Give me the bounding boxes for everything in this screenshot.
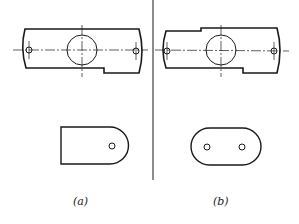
- part-outline: [23, 29, 142, 73]
- panel-a-label: (a): [73, 195, 88, 208]
- panel-a-top-view: [13, 25, 148, 77]
- drawing-svg: [0, 0, 299, 224]
- technical-drawing-figure: (a) (b): [0, 0, 299, 224]
- panel-b-side-view: [191, 128, 261, 165]
- panel-b-label: (b): [213, 195, 229, 208]
- slot-outline: [191, 128, 261, 165]
- panel-a-side-view: [61, 127, 129, 164]
- panel-b-top-view: [155, 25, 289, 77]
- slot-hole-left: [204, 144, 210, 150]
- horizontal-center-line: [155, 50, 289, 51]
- slot-hole-right: [239, 144, 245, 150]
- side-hole: [109, 143, 115, 149]
- side-outline: [61, 127, 129, 164]
